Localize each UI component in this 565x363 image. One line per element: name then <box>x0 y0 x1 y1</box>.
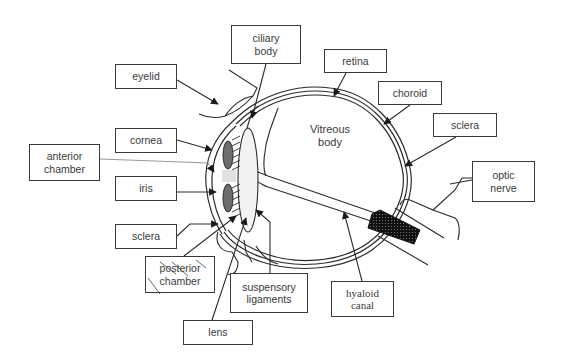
label-ciliary-body: ciliary body <box>231 25 301 64</box>
iris-upper <box>223 141 233 169</box>
label-posterior-chamber: posterior chamber <box>145 256 215 293</box>
iris-lower <box>223 184 233 212</box>
optic-disc <box>368 210 420 244</box>
label-hyaloid-canal: hyaloid canal <box>331 281 394 317</box>
vitreous-body-label: Vitreous body <box>300 123 360 149</box>
label-eyelid: eyelid <box>115 64 177 89</box>
pupil-gap <box>222 170 236 182</box>
label-optic-nerve: optic nerve <box>472 161 535 202</box>
label-iris: iris <box>115 176 177 201</box>
label-sclera-left: sclera <box>115 224 177 249</box>
label-sclera-right: sclera <box>433 113 497 137</box>
lens-shape <box>238 128 258 232</box>
label-choroid: choroid <box>378 81 442 105</box>
label-retina: retina <box>324 49 387 73</box>
label-anterior-chamber: anterior chamber <box>29 144 100 181</box>
eyelid <box>199 70 257 118</box>
label-cornea: cornea <box>115 128 177 153</box>
lower-eyelid <box>217 232 238 275</box>
label-suspensory-ligaments: suspensory ligaments <box>230 273 308 313</box>
label-lens: lens <box>183 320 253 345</box>
